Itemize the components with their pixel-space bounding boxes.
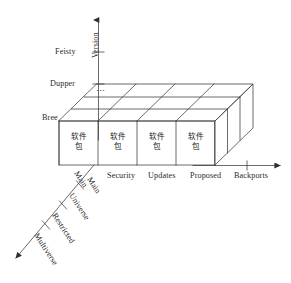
package-cell-1-line2: 包	[63, 142, 94, 152]
version-axis-ellipsis: ⋮	[97, 86, 106, 95]
diagram-canvas: Version Feisty Dupper Bree ⋮ Main Securi…	[0, 0, 291, 283]
version-axis-title: Version	[92, 32, 100, 58]
slab-right-face	[215, 84, 253, 165]
package-cell-4-line1: 软件	[180, 132, 211, 142]
pocket-axis-line	[193, 161, 280, 170]
pocket-tick-proposed: Proposed	[190, 172, 221, 180]
version-tick-dupper: Dupper	[50, 80, 75, 88]
version-tick-bree: Bree	[42, 114, 58, 122]
package-cell-4: 软件 包	[180, 132, 211, 151]
package-cell-4-line2: 包	[180, 142, 211, 152]
package-cell-2-line1: 软件	[102, 132, 133, 142]
package-cell-3-line1: 软件	[141, 132, 172, 142]
pocket-tick-updates: Updates	[148, 172, 176, 180]
package-cell-1: 软件 包	[63, 132, 94, 151]
slab-depth-steps	[228, 97, 241, 153]
package-cell-1-line1: 软件	[63, 132, 94, 142]
package-cell-2-line2: 包	[102, 142, 133, 152]
version-tick-feisty: Feisty	[55, 48, 76, 56]
pocket-tick-backports: Backports	[234, 172, 268, 180]
package-cell-3: 软件 包	[141, 132, 172, 151]
pocket-tick-security: Security	[107, 172, 135, 180]
slab-top-face	[59, 84, 253, 121]
package-cell-3-line2: 包	[141, 142, 172, 152]
package-cell-2: 软件 包	[102, 132, 133, 151]
